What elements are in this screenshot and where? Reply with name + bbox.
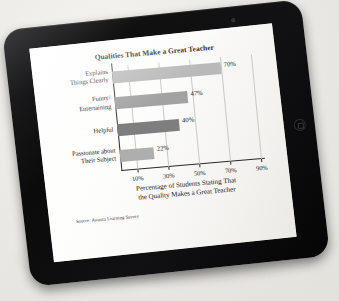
- bar: [117, 118, 180, 135]
- home-button-square: [298, 123, 305, 130]
- plot-area: 10%30%50%70%90%ExplainsThings Clearly70%…: [111, 55, 261, 171]
- x-axis-tick: [261, 159, 262, 162]
- category-label-line: Helpful: [51, 125, 114, 139]
- category-label: Funny/Entertaining: [48, 94, 111, 116]
- x-axis-tick: [230, 162, 231, 165]
- source-note: Source: Awanta Learning Survey: [76, 214, 139, 224]
- x-axis-tick-label: 50%: [194, 169, 206, 177]
- bar-value-label: 70%: [223, 59, 236, 67]
- tablet-screen[interactable]: Qualities That Make a Great Teacher 10%3…: [29, 23, 296, 262]
- x-axis-tick-label: 90%: [256, 163, 268, 171]
- category-label: Passionate aboutTheir Subject: [53, 146, 116, 168]
- x-axis-tick: [137, 170, 138, 173]
- bar: [119, 147, 154, 162]
- x-axis-tick: [168, 167, 169, 170]
- bar-value-label: 47%: [190, 89, 203, 97]
- bar: [114, 91, 188, 109]
- x-axis-tick: [199, 164, 200, 167]
- category-label: ExplainsThings Clearly: [46, 68, 109, 90]
- tablet-device: Qualities That Make a Great Teacher 10%3…: [2, 0, 330, 287]
- x-axis-tick-label: 30%: [163, 171, 175, 179]
- category-label: Helpful: [51, 125, 114, 139]
- bar-value-label: 40%: [182, 116, 195, 124]
- x-axis-tick-label: 10%: [132, 174, 144, 182]
- bar-chart: Qualities That Make a Great Teacher 10%3…: [31, 25, 295, 260]
- bar: [112, 62, 222, 83]
- x-axis-tick-label: 70%: [225, 166, 237, 174]
- bar-value-label: 22%: [156, 144, 169, 152]
- x-axis-title: Percentage of Students Stating That the …: [91, 172, 282, 207]
